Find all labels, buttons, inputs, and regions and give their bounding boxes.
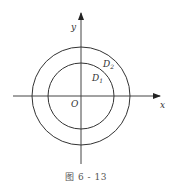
figure-canvas: y x O D2 D1: [0, 0, 172, 188]
y-axis-label: y: [70, 22, 77, 32]
region-d2-label: D2: [102, 59, 114, 70]
figure-caption: 图 6 - 13: [0, 170, 172, 183]
x-axis-label: x: [160, 100, 165, 110]
region-d1-label: D1: [91, 73, 103, 84]
origin-label: O: [71, 99, 79, 109]
